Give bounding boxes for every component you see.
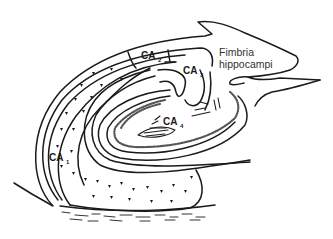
- fimbria-notch: [230, 77, 248, 85]
- label-ca1-main: CA: [49, 152, 63, 163]
- ca1-lower-belt: [70, 170, 202, 211]
- label-ca3: CA 3: [183, 65, 204, 78]
- label-fimbria-line1: Fimbria: [219, 46, 254, 58]
- label-fimbria-line2: hippocampi: [219, 58, 273, 70]
- ca3-hook: [158, 70, 185, 97]
- white-matter-strokes: [62, 212, 205, 221]
- label-ca1: CA 1: [49, 152, 70, 165]
- outer-boundary-lower-left: [14, 183, 53, 206]
- label-fimbria-hippocampi: Fimbria hippocampi: [219, 46, 273, 70]
- label-ca3-main: CA: [183, 65, 197, 76]
- label-ca2-main: CA: [141, 50, 155, 61]
- label-ca4-sub: 4: [180, 123, 184, 129]
- hippocampus-diagram: CA 1 CA 2 CA 3 CA 4 Fimbria hippocampi: [0, 0, 333, 239]
- label-ca1-sub: 1: [66, 159, 70, 165]
- label-ca4-main: CA: [163, 116, 177, 127]
- fimbria-lower-edge: [255, 80, 320, 106]
- ca1-outer-edge: [58, 62, 175, 205]
